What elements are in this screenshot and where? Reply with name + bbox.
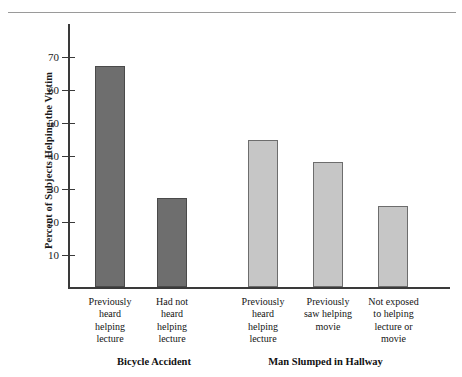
- y-tick-label: 30: [48, 184, 59, 195]
- y-tick-label: 50: [48, 118, 59, 129]
- x-category-line: movie: [343, 333, 444, 345]
- y-tick-label: 40: [48, 151, 59, 162]
- y-tick-label: 10: [48, 250, 59, 261]
- bar-not-exposed-hallway: [378, 206, 408, 287]
- x-category-line: to helping: [343, 308, 444, 320]
- y-tick-mark: [62, 255, 75, 256]
- x-category-label-4: Not exposed to helping lecture or movie: [343, 296, 444, 345]
- x-category-label-1: Had not heard helping lecture: [126, 296, 218, 345]
- bar-previously-heard-lecture-hallway: [248, 140, 278, 287]
- x-category-line: Had not: [126, 296, 218, 308]
- bar-previously-heard-lecture-bicycle: [95, 66, 125, 287]
- y-tick-mark: [62, 222, 75, 223]
- y-tick-label: 60: [48, 85, 59, 96]
- x-category-line: lecture: [126, 333, 218, 345]
- bar-chart-figure: Percent of Subjects Helping the Victim 7…: [0, 0, 462, 377]
- x-category-line: Not exposed: [343, 296, 444, 308]
- y-tick-mark: [62, 57, 75, 58]
- x-category-line: lecture: [215, 333, 311, 345]
- top-divider-rule: [8, 12, 456, 13]
- x-category-line: helping: [126, 321, 218, 333]
- y-tick-label: 70: [48, 52, 59, 63]
- y-tick-mark: [62, 90, 75, 91]
- bar-had-not-heard-lecture-bicycle: [157, 198, 187, 287]
- x-category-line: heard: [126, 308, 218, 320]
- x-axis-line: [68, 287, 450, 289]
- y-tick-label: 20: [48, 217, 59, 228]
- y-tick-mark: [62, 123, 75, 124]
- plot-area: 70 60 50 40 30 20 10: [68, 24, 450, 288]
- group-label-man-slumped-in-hallway: Man Slumped in Hallway: [238, 356, 413, 367]
- y-tick-mark: [62, 189, 75, 190]
- bar-previously-saw-movie-hallway: [313, 162, 343, 287]
- group-label-bicycle-accident: Bicycle Accident: [89, 356, 219, 367]
- y-tick-mark: [62, 156, 75, 157]
- x-category-line: lecture or: [343, 321, 444, 333]
